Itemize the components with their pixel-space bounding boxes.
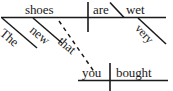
word-wet: wet <box>126 3 144 16</box>
predicate-adjective-divider <box>110 3 124 18</box>
word-shoes: shoes <box>25 3 53 16</box>
sentence-diagram: shoes are wet The new very that you boug… <box>0 0 173 91</box>
word-you: you <box>82 66 101 79</box>
word-are: are <box>93 3 109 16</box>
word-bought: bought <box>116 66 152 79</box>
